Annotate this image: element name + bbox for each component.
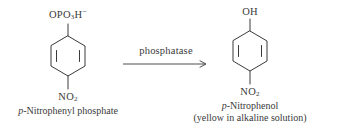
product-bottom-substituent-label: NO2 <box>190 86 310 100</box>
product-structure <box>190 18 310 86</box>
product-note: (yellow in alkaline solution) <box>190 112 310 124</box>
product-name: p-Nitrophenol <box>190 100 310 112</box>
reactant-nitro-text: NO <box>58 91 74 102</box>
reactant-substituent-charge: − <box>82 7 87 16</box>
reactant-molecule: OPO3H− NO2 p-Nitrophenyl phosphate <box>8 6 128 117</box>
reactant-nitro-subscript: 2 <box>74 95 78 103</box>
reactant-structure <box>8 23 128 91</box>
reactant-name: p-Nitrophenyl phosphate <box>8 105 128 117</box>
product-nitro-subscript: 2 <box>256 90 260 98</box>
benzene-ring-icon <box>40 23 96 91</box>
reactant-bottom-substituent-label: NO2 <box>8 91 128 105</box>
reaction-scheme: OPO3H− NO2 p-Nitrophenyl phosphate phosp… <box>0 0 340 134</box>
product-molecule: OH NO2 p-Nitrophenol (yellow in alkaline… <box>190 6 310 124</box>
reactant-substituent-prefix: OPO <box>49 9 71 20</box>
product-name-rest: -Nitrophenol <box>227 100 279 111</box>
product-top-substituent-label: OH <box>190 6 310 18</box>
benzene-ring-icon <box>222 18 278 86</box>
reactant-top-substituent-label: OPO3H− <box>8 6 128 23</box>
reactant-name-rest: -Nitrophenyl phosphate <box>23 105 118 116</box>
product-nitro-text: NO <box>240 86 256 97</box>
